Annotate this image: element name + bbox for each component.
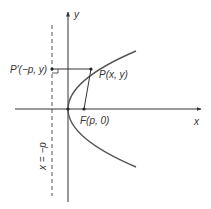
point-p-label: P(x, y) bbox=[99, 69, 128, 80]
x-axis-label: x bbox=[193, 116, 200, 127]
y-axis-label: y bbox=[73, 9, 80, 20]
vertex-dot bbox=[66, 107, 69, 110]
point-p-prime-label: P′(−p, y) bbox=[10, 64, 47, 75]
directrix-label: x = −p bbox=[37, 142, 48, 171]
point-p-dot bbox=[89, 67, 92, 70]
parabola-diagram: y x P(x, y) P′(−p, y) F(p, 0) x = −p bbox=[0, 0, 211, 209]
point-p-prime-dot bbox=[50, 67, 53, 70]
focus-dot bbox=[82, 107, 85, 110]
focus-label: F(p, 0) bbox=[80, 115, 109, 126]
segment-p-to-focus bbox=[84, 69, 91, 109]
